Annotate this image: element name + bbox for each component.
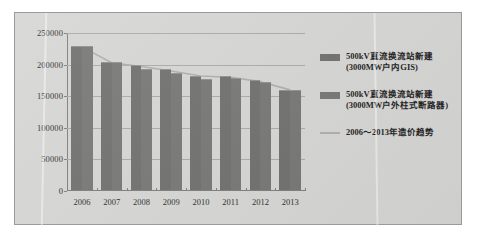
y-axis-tick-labels: 050000100000150000200000250000 (13, 33, 63, 191)
legend-label: 500kV直流换流站新建(3000MW户外柱式断路器) (346, 89, 448, 111)
chart-panel: 050000100000150000200000250000 200620072… (14, 12, 462, 225)
x-tick-mark (127, 188, 128, 191)
legend-label: 500kV直流换流站新建(3000MW户内GIS) (346, 51, 433, 73)
y-tick-mark (64, 65, 67, 66)
y-tick-label: 100000 (37, 123, 63, 133)
legend-trend-line-icon (320, 132, 340, 134)
legend-color-swatch-icon (320, 92, 340, 99)
legend-color-swatch-icon (320, 54, 340, 61)
y-tick-label: 250000 (37, 28, 63, 38)
bar (231, 78, 242, 190)
x-tick-mark (275, 188, 276, 191)
legend-item[interactable]: 500kV直流换流站新建(3000MW户内GIS) (320, 51, 460, 73)
legend-label-line-1: 2006～2013年造价趋势 (346, 127, 434, 137)
legend-label-line-2: (3000MW户外柱式断路器) (346, 100, 448, 111)
y-tick-mark (64, 159, 67, 160)
y-tick-label: 200000 (37, 60, 63, 70)
x-tick-mark (246, 188, 247, 191)
x-tick-label: 2011 (222, 197, 239, 207)
y-tick-label: 0 (59, 186, 63, 196)
legend-item[interactable]: 2006～2013年造价趋势 (320, 127, 460, 138)
bar (141, 69, 152, 190)
y-tick-mark (64, 128, 67, 129)
legend-label-line-1: 500kV直流换流站新建 (346, 89, 433, 99)
bar (279, 90, 290, 190)
bar (71, 46, 82, 190)
legend-label: 2006～2013年造价趋势 (346, 127, 434, 138)
x-tick-mark (67, 188, 68, 191)
y-tick-mark (64, 191, 67, 192)
bar (171, 73, 182, 190)
x-tick-label: 2008 (133, 197, 150, 207)
x-tick-label: 2010 (192, 197, 209, 207)
y-tick-mark (64, 96, 67, 97)
x-tick-label: 2007 (103, 197, 120, 207)
y-tick-label: 50000 (41, 154, 63, 164)
bar (82, 46, 93, 190)
plot-area: 20062007200820092010201120122013 (67, 33, 305, 191)
bar (190, 76, 201, 190)
x-tick-mark (305, 188, 306, 191)
legend-label-line-1: 500kV直流换流站新建 (346, 51, 433, 61)
x-tick-label: 2006 (73, 197, 90, 207)
y-axis-line (67, 33, 68, 191)
bar (220, 76, 231, 190)
bar (101, 62, 112, 190)
bar (250, 80, 261, 190)
bar (290, 90, 301, 190)
gridline (67, 33, 305, 34)
bar (260, 82, 271, 190)
bar (160, 69, 171, 190)
chart-figure: 050000100000150000200000250000 200620072… (0, 0, 477, 242)
x-tick-mark (97, 188, 98, 191)
legend-label-line-2: (3000MW户内GIS) (346, 62, 433, 73)
x-tick-label: 2009 (163, 197, 180, 207)
x-tick-mark (216, 188, 217, 191)
x-tick-label: 2013 (282, 197, 299, 207)
bar (131, 65, 142, 190)
x-tick-mark (156, 188, 157, 191)
bar (201, 79, 212, 190)
x-tick-label: 2012 (252, 197, 269, 207)
y-tick-mark (64, 33, 67, 34)
legend-item[interactable]: 500kV直流换流站新建(3000MW户外柱式断路器) (320, 89, 460, 111)
y-tick-label: 150000 (37, 91, 63, 101)
x-tick-mark (186, 188, 187, 191)
bar (112, 62, 123, 190)
chart-legend: 500kV直流换流站新建(3000MW户内GIS)500kV直流换流站新建(30… (320, 51, 460, 154)
